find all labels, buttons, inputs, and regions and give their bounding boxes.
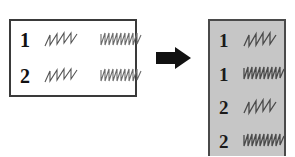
- source-table: 1 2: [9, 19, 137, 97]
- sawtooth-sparse-icon: [242, 98, 282, 118]
- sawtooth-sparse-icon: [242, 31, 282, 51]
- table-row: 1: [210, 58, 284, 92]
- sawtooth-sparse-icon: [44, 31, 82, 49]
- row-label: 1: [20, 30, 38, 50]
- row-label: 2: [20, 66, 38, 86]
- sawtooth-dense-icon: [100, 67, 144, 85]
- table-row: 2: [11, 58, 135, 94]
- sawtooth-sparse-icon: [44, 67, 82, 85]
- result-table: 1 1 2 2: [208, 19, 286, 156]
- row-label: 2: [219, 132, 237, 151]
- right-arrow-icon: [156, 47, 191, 69]
- diagram-canvas: 1 2: [0, 0, 295, 156]
- table-row: 2: [210, 91, 284, 125]
- row-label: 1: [219, 65, 237, 84]
- table-row: 1: [210, 24, 284, 58]
- row-label: 2: [219, 98, 237, 117]
- row-label: 1: [219, 31, 237, 50]
- table-row: 2: [210, 125, 284, 157]
- table-row: 1: [11, 22, 135, 58]
- sawtooth-dense-icon: [100, 31, 144, 49]
- sawtooth-dense-icon: [242, 131, 286, 151]
- sawtooth-dense-icon: [242, 64, 286, 84]
